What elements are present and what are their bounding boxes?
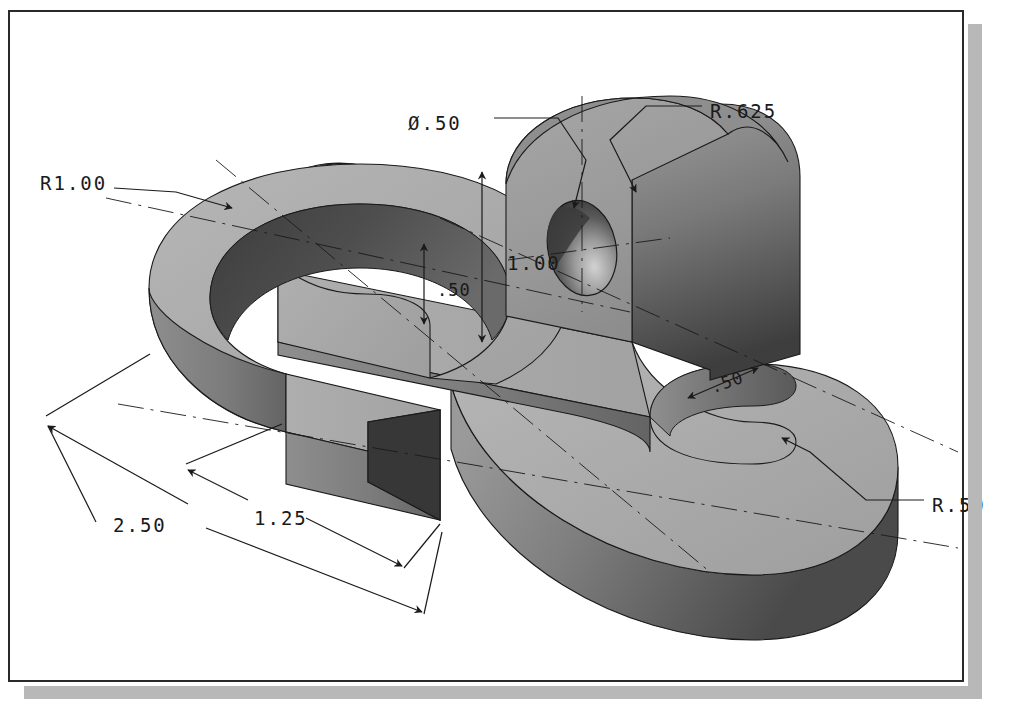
dimension-label-height-50: .50	[437, 280, 471, 300]
extline-1-25-right	[404, 524, 440, 568]
frame-shadow-bottom	[24, 686, 982, 699]
drawing-page: R1.00 Ø.50 R.625 1.00 .50 .50 2.50 1.25 …	[0, 0, 1034, 717]
part-solid	[149, 96, 898, 640]
dimension-label-dia50: Ø.50	[408, 112, 462, 134]
dimension-label-height-100: 1.00	[507, 252, 561, 274]
dimension-label-r625: R.625	[710, 100, 777, 122]
dimension-label-125: 1.25	[254, 507, 308, 529]
dimline-2-50	[48, 426, 96, 522]
dimline-1-25-b	[306, 518, 402, 566]
isometric-part-drawing	[10, 12, 966, 684]
dimline-2-50-a	[48, 426, 188, 504]
dimline-1-25-a	[188, 470, 248, 500]
dimension-label-r100: R1.00	[40, 172, 107, 194]
drawing-frame: R1.00 Ø.50 R.625 1.00 .50 .50 2.50 1.25 …	[8, 10, 964, 682]
extline-1-25-left	[186, 424, 282, 464]
dimension-label-250: 2.50	[113, 514, 167, 536]
dimline-2-50-b	[206, 528, 422, 612]
frame-shadow-right	[968, 24, 982, 696]
extline-2-50-right	[424, 532, 442, 614]
